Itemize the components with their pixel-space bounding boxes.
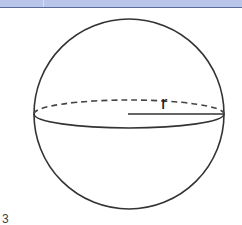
equator-back-dashed	[34, 100, 224, 114]
radius-label: r	[161, 92, 168, 113]
sphere-diagram: r	[0, 0, 242, 225]
cropped-text-fragment: 3	[2, 214, 9, 225]
equator-front-solid	[34, 114, 224, 128]
